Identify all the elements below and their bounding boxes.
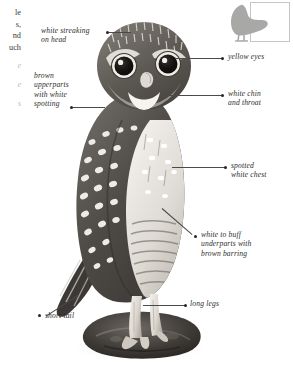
clipped-text-fragment: e <box>0 60 22 72</box>
annotation-white-streaking-on-head: white streaking on head <box>41 26 105 45</box>
leader-line-yellow-eyes <box>175 58 222 59</box>
leader-line-white-chin <box>160 95 222 96</box>
clipped-text-fragment: s, <box>0 19 22 31</box>
clipped-text-fragment: nd <box>0 30 22 42</box>
leader-dot-long-legs <box>184 304 187 307</box>
annotation-brown-upperparts-with-white-spotting: brown upperparts with white spotting <box>34 71 94 108</box>
annotation-white-to-buff-underparts-with-brown-barring: white to buff underparts with brown barr… <box>201 230 285 258</box>
leader-dot-yellow-eyes <box>221 57 224 60</box>
clipped-text-column: le s, nd uch e e s <box>0 7 22 109</box>
field-guide-plate: le s, nd uch e e s <box>0 0 293 370</box>
owl-eye-left <box>112 54 137 79</box>
owl-eye-right <box>156 52 181 77</box>
clipped-text-fragment: s <box>0 98 22 110</box>
annotation-spotted-white-chest: spotted white chest <box>231 161 291 180</box>
clipped-text-fragment: uch <box>0 42 22 54</box>
perched-owl-silhouette-icon <box>227 3 273 43</box>
leader-dot-underparts <box>194 235 197 238</box>
annotation-white-chin-and-throat: white chin and throat <box>228 89 290 108</box>
leader-dot-spotted-chest <box>224 166 227 169</box>
leader-dot-short-tail <box>38 314 41 317</box>
leader-line-white-streaking <box>109 32 131 33</box>
leader-dot-white-streaking <box>106 31 109 34</box>
annotation-short-tail: short tail <box>45 311 95 320</box>
leader-line-long-legs <box>143 305 185 306</box>
clipped-text-fragment: le <box>0 7 22 19</box>
leader-line-underparts <box>162 208 193 235</box>
annotation-long-legs: long legs <box>190 299 246 308</box>
clipped-text-fragment: e <box>0 79 22 91</box>
annotation-yellow-eyes: yellow eyes <box>228 52 290 61</box>
leader-line-spotted-chest <box>172 167 225 168</box>
leader-dot-white-chin <box>221 94 224 97</box>
